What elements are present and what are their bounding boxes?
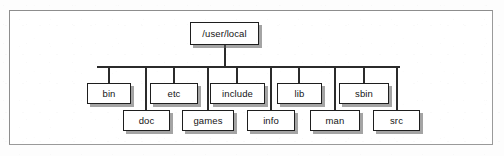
tree-node-info[interactable]: info bbox=[247, 110, 295, 131]
drop-line-man bbox=[334, 66, 336, 111]
drop-line-doc bbox=[145, 66, 147, 111]
tree-node-doc[interactable]: doc bbox=[123, 110, 170, 131]
drop-line-sbin bbox=[363, 66, 365, 84]
tree-node-games[interactable]: games bbox=[182, 110, 234, 131]
tree-node-bin[interactable]: bin bbox=[87, 83, 131, 104]
tree-node-label: sbin bbox=[355, 88, 373, 98]
drop-line-etc bbox=[173, 66, 175, 84]
drop-line-src bbox=[396, 66, 398, 111]
tree-node-user-local[interactable]: /user/local bbox=[190, 22, 259, 45]
tree-node-label: lib bbox=[295, 88, 305, 98]
drop-line-info bbox=[270, 66, 272, 111]
tree-node-label: etc bbox=[168, 88, 181, 98]
tree-node-label: man bbox=[326, 115, 345, 125]
tree-node-lib[interactable]: lib bbox=[277, 83, 322, 104]
tree-node-label: doc bbox=[139, 115, 155, 125]
drop-line-games bbox=[207, 66, 209, 111]
tree-node-label: games bbox=[193, 115, 222, 125]
bus-bar-line bbox=[97, 66, 400, 68]
tree-node-label: /user/local bbox=[202, 28, 246, 38]
tree-node-etc[interactable]: etc bbox=[150, 83, 198, 104]
drop-line-include bbox=[236, 66, 238, 84]
tree-node-label: info bbox=[263, 115, 279, 125]
root-stem-line bbox=[224, 45, 226, 68]
tree-node-include[interactable]: include bbox=[210, 83, 265, 104]
directory-tree-figure: /user/localbindocetcgamesincludeinfolibm… bbox=[0, 0, 504, 156]
tree-node-man[interactable]: man bbox=[310, 110, 360, 131]
tree-node-label: bin bbox=[103, 88, 116, 98]
diagram-canvas: /user/localbindocetcgamesincludeinfolibm… bbox=[0, 0, 504, 156]
tree-node-sbin[interactable]: sbin bbox=[339, 83, 389, 104]
tree-node-label: include bbox=[222, 88, 253, 98]
tree-node-label: src bbox=[390, 115, 403, 125]
drop-line-bin bbox=[108, 66, 110, 84]
drop-line-lib bbox=[298, 66, 300, 84]
tree-node-src[interactable]: src bbox=[373, 110, 420, 131]
